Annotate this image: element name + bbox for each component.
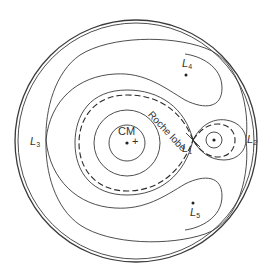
horseshoe-outer-contour xyxy=(46,39,247,241)
l4-sub: 4 xyxy=(188,63,192,70)
l2-label: L2 xyxy=(247,134,257,146)
l5-sub: 5 xyxy=(196,212,200,219)
l5-point xyxy=(192,202,195,205)
l3-label: L3 xyxy=(30,136,40,148)
cm-label: CM xyxy=(118,126,135,137)
cm-plus-marker: + xyxy=(132,136,138,147)
l5-label: L5 xyxy=(190,207,200,219)
l3-sub: 3 xyxy=(36,141,40,148)
secondary-contour xyxy=(193,120,246,160)
l2-sub: 2 xyxy=(253,139,257,146)
l1-sub: 1 xyxy=(188,148,192,155)
secondary-star-dot xyxy=(212,138,215,141)
roche-diagram: + CM L4 L5 L3 L2 L1 Roche lobe xyxy=(0,0,273,277)
l4-point xyxy=(185,74,188,77)
l4-label: L4 xyxy=(182,58,192,70)
primary-star-dot xyxy=(125,141,128,144)
